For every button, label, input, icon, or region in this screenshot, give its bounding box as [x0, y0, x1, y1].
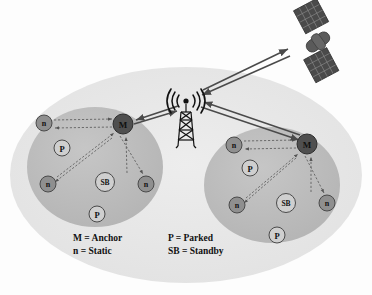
satellite-icon [294, 0, 339, 83]
diagram-canvas: n n n P P SB M [0, 0, 372, 295]
node-right-parked-2[interactable]: P [269, 227, 285, 243]
node-left-static-1[interactable]: n [36, 115, 52, 131]
node-label: P [94, 210, 99, 220]
node-left-standby[interactable]: SB [96, 173, 115, 192]
node-label: n [325, 199, 330, 208]
node-right-parked-1[interactable]: P [242, 160, 258, 176]
node-label: n [232, 141, 237, 150]
node-label: P [247, 164, 252, 174]
node-right-standby[interactable]: SB [277, 194, 296, 213]
node-right-static-3[interactable]: n [319, 195, 335, 211]
network-diagram: n n n P P SB M [0, 0, 372, 295]
node-right-static-1[interactable]: n [226, 137, 242, 153]
node-left-anchor[interactable]: M [113, 114, 133, 134]
node-right-static-2[interactable]: n [229, 197, 245, 213]
node-label: n [42, 119, 47, 128]
node-left-parked-2[interactable]: P [89, 206, 105, 222]
node-label: n [144, 180, 149, 189]
legend-entry-parked: P = Parked [168, 233, 214, 243]
node-label: SB [281, 199, 290, 208]
legend-entry-static: n = Static [73, 246, 112, 256]
node-left-parked-1[interactable]: P [54, 140, 70, 156]
node-label: P [274, 231, 279, 241]
node-left-static-3[interactable]: n [138, 176, 154, 192]
node-label: M [119, 120, 128, 130]
node-left-static-2[interactable]: n [40, 176, 56, 192]
node-label: M [303, 140, 312, 150]
node-label: SB [100, 178, 109, 187]
node-label: n [46, 180, 51, 189]
legend-entry-standby: SB = Standby [168, 246, 224, 256]
node-label: n [235, 201, 240, 210]
node-right-anchor[interactable]: M [297, 134, 317, 154]
legend-entry-anchor: M = Anchor [73, 233, 123, 243]
node-label: P [59, 144, 64, 154]
